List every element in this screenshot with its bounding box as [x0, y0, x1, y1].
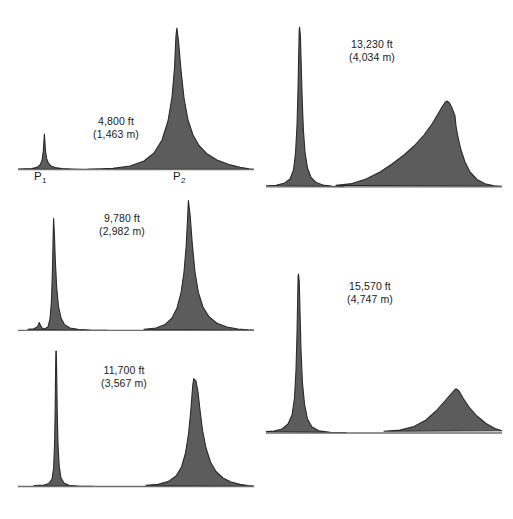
peak-p2-11700	[146, 379, 254, 487]
axis-label-p2-base: P	[173, 170, 181, 182]
panel-13230ft-altitude-label: 13,230 ft (4,034 m)	[310, 38, 434, 63]
panel-4800ft-altitude-label: 4,800 ft (1,463 m)	[56, 115, 176, 140]
figure-canvas: 4,800 ft (1,463 m) P1 P2 9,780 ft (2,982…	[0, 0, 513, 519]
peak-p2-13230	[336, 101, 502, 186]
panel-9780ft-altitude-label: 9,780 ft (2,982 m)	[62, 212, 182, 237]
panel-4800ft-altitude-ft: 4,800 ft	[98, 115, 134, 127]
panel-4800ft-altitude-m: (1,463 m)	[56, 128, 176, 141]
panel-13230ft-altitude-ft: 13,230 ft	[351, 38, 393, 50]
panel-15570ft: 15,570 ft (4,747 m)	[266, 270, 502, 434]
panel-11700ft-altitude-m: (3,567 m)	[64, 377, 184, 390]
panel-9780ft: 9,780 ft (2,982 m)	[18, 198, 254, 332]
panel-9780ft-altitude-ft: 9,780 ft	[104, 212, 140, 224]
axis-label-p2-sub: 2	[181, 176, 185, 185]
panel-15570ft-altitude-ft: 15,570 ft	[349, 280, 391, 292]
panel-15570ft-altitude-m: (4,747 m)	[308, 293, 432, 306]
axis-label-p2: P2	[173, 170, 185, 182]
peak-p2-15570	[384, 389, 502, 431]
panel-4800ft-plot	[18, 22, 254, 172]
panel-11700ft: 11,700 ft (3,567 m)	[18, 350, 254, 488]
panel-11700ft-altitude-label: 11,700 ft (3,567 m)	[64, 364, 184, 389]
peak-p2-4800	[88, 28, 254, 169]
axis-label-p1-base: P	[34, 170, 42, 182]
axis-label-p1-sub: 1	[42, 176, 46, 185]
panel-15570ft-altitude-label: 15,570 ft (4,747 m)	[308, 280, 432, 305]
panel-13230ft-altitude-m: (4,034 m)	[310, 51, 434, 64]
panel-13230ft: 13,230 ft (4,034 m)	[266, 22, 502, 188]
panel-4800ft: 4,800 ft (1,463 m)	[18, 22, 254, 172]
panel-9780ft-altitude-m: (2,982 m)	[62, 225, 182, 238]
panel-11700ft-altitude-ft: 11,700 ft	[104, 364, 145, 376]
axis-label-p1: P1	[34, 170, 46, 182]
